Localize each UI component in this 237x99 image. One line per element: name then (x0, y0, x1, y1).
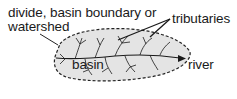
river-label: river (188, 58, 214, 72)
divide-label: divide, basin boundary or (8, 6, 156, 20)
drainage-basin-diagram: divide, basin boundary or watershed trib… (0, 0, 237, 99)
watershed-label: watershed (8, 20, 69, 34)
basin-area (54, 29, 190, 81)
basin-label: basin (72, 58, 104, 72)
tributaries-label: tributaries (172, 12, 230, 26)
watershed-pointer (40, 34, 58, 45)
